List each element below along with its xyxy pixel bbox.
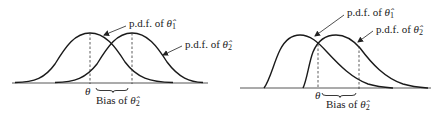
right-bias-label: Bias of θ̂2	[326, 98, 371, 112]
left-theta1-arrow	[104, 26, 126, 35]
bias-diagram: θ Bias of θ̂2 p.d.f. of θ̂1 p.d.f. of θ̂…	[0, 0, 442, 118]
left-pdf-theta2-curve	[55, 33, 203, 83]
right-bias-brace	[322, 93, 356, 98]
left-theta1-label: p.d.f. of θ̂1	[129, 17, 177, 31]
left-theta-label: θ	[85, 85, 91, 97]
right-pdf-theta2-curve	[303, 35, 428, 88]
left-theta2-label: p.d.f. of θ̂2	[185, 38, 233, 52]
right-theta2-arrow	[358, 31, 373, 42]
right-panel: θ Bias of θ̂2 p.d.f. of θ̂1 p.d.f. of θ̂…	[240, 6, 431, 112]
left-theta2-arrow	[163, 46, 182, 55]
right-theta2-label: p.d.f. of θ̂2	[376, 23, 424, 37]
left-panel: θ Bias of θ̂2 p.d.f. of θ̂1 p.d.f. of θ̂…	[12, 17, 233, 108]
right-theta1-arrow	[315, 15, 344, 36]
right-theta1-label: p.d.f. of θ̂1	[347, 6, 395, 20]
left-bias-label: Bias of θ̂2	[96, 94, 141, 108]
right-theta-label: θ	[315, 89, 321, 101]
left-bias-brace	[96, 88, 128, 93]
right-pdf-theta1-curve	[264, 35, 393, 88]
